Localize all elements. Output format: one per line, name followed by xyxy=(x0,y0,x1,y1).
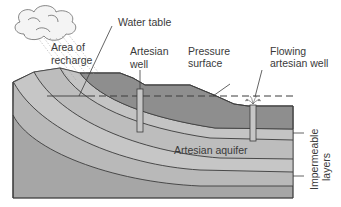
label-area-of-recharge-2: recharge xyxy=(51,54,93,66)
label-pressure-surface-1: Pressure xyxy=(188,45,230,57)
label-flowing-well-2: artesian well xyxy=(270,57,328,69)
pressure-surface-pointer xyxy=(213,84,230,96)
label-pressure-surface-2: surface xyxy=(188,57,223,69)
flowing-artesian-well xyxy=(250,105,256,141)
label-flowing-well-1: Flowing xyxy=(270,45,306,57)
label-impermeable-1: Impermeable xyxy=(308,129,320,190)
flowing-well-pointer xyxy=(255,70,262,97)
label-artesian-well-2: well xyxy=(129,58,148,70)
label-artesian-aquifer: Artesian aquifer xyxy=(174,144,248,156)
cloud-icon xyxy=(15,6,76,41)
label-artesian-well-1: Artesian xyxy=(130,45,169,57)
label-water-table: Water table xyxy=(118,16,171,28)
artesian-aquifer-diagram: Water table Area of recharge Artesian we… xyxy=(0,0,341,207)
water-spray-icon xyxy=(245,96,261,104)
label-area-of-recharge-1: Area of xyxy=(51,41,85,53)
label-impermeable-2: layers xyxy=(320,153,332,181)
artesian-well xyxy=(137,89,143,132)
